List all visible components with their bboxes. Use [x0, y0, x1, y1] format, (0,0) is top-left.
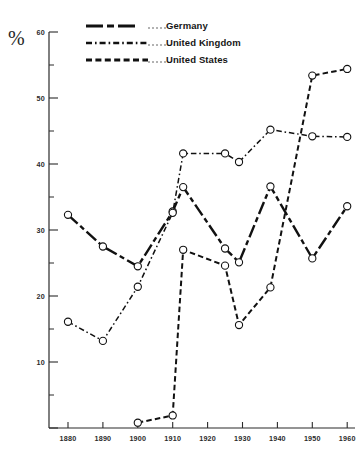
data-point-marker	[344, 133, 351, 140]
legend-label-united-states: United States	[166, 54, 228, 65]
x-tick-label: 1900	[129, 434, 146, 443]
series-united-kingdom	[64, 126, 350, 344]
x-tick-label: 1960	[339, 434, 356, 443]
y-tick-label: 50	[37, 94, 45, 103]
series-line	[138, 69, 347, 423]
legend-leader-dots-germany	[148, 20, 166, 32]
legend-leader-dots-united-states	[148, 54, 166, 66]
x-tick-label: 1940	[269, 434, 286, 443]
data-point-marker	[64, 211, 71, 218]
legend-item-united-states: United States	[86, 51, 266, 68]
data-point-marker	[344, 203, 351, 210]
y-tick-label: 20	[37, 292, 45, 301]
data-point-marker	[267, 126, 274, 133]
data-point-marker	[64, 318, 71, 325]
x-tick-label: 1930	[234, 434, 251, 443]
data-point-marker	[134, 419, 141, 426]
legend-swatch-germany	[86, 20, 148, 32]
data-point-marker	[99, 337, 106, 344]
x-tick-label: 1920	[199, 434, 216, 443]
chart-legend: Germany United Kingdom United States	[86, 17, 266, 68]
x-tick-label: 1910	[164, 434, 181, 443]
y-tick-label: 10	[37, 358, 45, 367]
data-point-marker	[180, 150, 187, 157]
legend-item-germany: Germany	[86, 17, 266, 34]
x-tick-label: 1890	[95, 434, 112, 443]
data-point-marker	[99, 243, 106, 250]
legend-label-germany: Germany	[166, 20, 208, 31]
series-line	[68, 130, 347, 341]
series-germany	[64, 183, 350, 270]
legend-swatch-united-states	[86, 54, 148, 66]
series-line	[68, 186, 347, 266]
data-point-marker	[134, 283, 141, 290]
legend-item-united-kingdom: United Kingdom	[86, 34, 266, 51]
data-point-marker	[267, 183, 274, 190]
y-tick-label: 40	[37, 160, 45, 169]
y-tick-label: 60	[37, 28, 45, 37]
data-point-marker	[235, 158, 242, 165]
data-point-marker	[180, 184, 187, 191]
data-point-marker	[309, 133, 316, 140]
data-point-marker	[180, 246, 187, 253]
legend-swatch-united-kingdom	[86, 37, 148, 49]
x-tick-label: 1880	[60, 434, 77, 443]
data-point-marker	[134, 263, 141, 270]
data-point-marker	[235, 259, 242, 266]
chart-plot: 1020304050601880189019001910192019301940…	[0, 0, 359, 458]
data-point-marker	[235, 321, 242, 328]
data-point-marker	[344, 65, 351, 72]
legend-label-united-kingdom: United Kingdom	[166, 37, 241, 48]
data-point-marker	[309, 255, 316, 262]
data-point-marker	[221, 262, 228, 269]
data-point-marker	[221, 245, 228, 252]
y-tick-label: 30	[37, 226, 45, 235]
data-point-marker	[267, 284, 274, 291]
data-point-marker	[221, 150, 228, 157]
data-point-marker	[169, 412, 176, 419]
x-tick-label: 1950	[304, 434, 321, 443]
series-united-states	[134, 65, 351, 426]
data-point-marker	[309, 72, 316, 79]
data-point-marker	[169, 209, 176, 216]
legend-leader-dots-united-kingdom	[148, 37, 166, 49]
chart-container: % 10203040506018801890190019101920193019…	[0, 0, 359, 458]
